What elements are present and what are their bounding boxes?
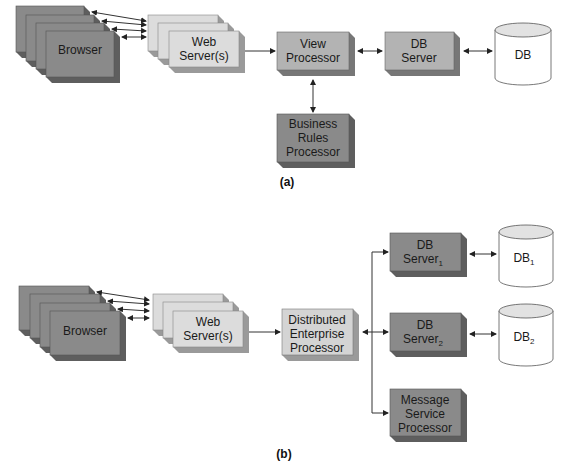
svg-text:Distributed: Distributed	[288, 313, 345, 327]
architecture-diagram: Browser Web Server(s) View Processor	[0, 0, 569, 474]
db-server-1-box: DB Server1	[390, 233, 467, 277]
svg-text:DB: DB	[411, 37, 428, 51]
svg-text:Processor: Processor	[286, 145, 340, 159]
svg-text:Server: Server	[401, 51, 436, 65]
business-rules-box: Business Rules Processor	[277, 114, 355, 168]
web-server-stack-b: Web Server(s)	[153, 294, 249, 353]
svg-text:Business: Business	[289, 117, 338, 131]
web-server-label-a-2: Server(s)	[179, 49, 228, 63]
caption-b: (b)	[276, 447, 291, 461]
web-server-stack-a: Web Server(s)	[148, 15, 245, 73]
db-1-cylinder: DB1	[499, 225, 553, 287]
db-server-box-a: DB Server	[385, 32, 460, 76]
svg-text:Processor: Processor	[290, 341, 344, 355]
message-service-box: Message Service Processor	[390, 389, 467, 442]
diagram-a: Browser Web Server(s) View Processor	[16, 6, 551, 189]
svg-text:DB: DB	[417, 238, 434, 252]
web-server-label-a-1: Web	[192, 35, 217, 49]
db-2-cylinder: DB2	[499, 304, 553, 366]
diagram-b: Browser Web Server(s) Distributed Enterp…	[19, 225, 553, 461]
dep-bus-lines	[363, 252, 388, 413]
browser-stack-b: Browser	[19, 286, 126, 361]
browser-label-a: Browser	[58, 43, 102, 57]
svg-text:Processor: Processor	[398, 421, 452, 435]
svg-text:DB: DB	[515, 48, 532, 62]
svg-text:Enterprise: Enterprise	[290, 327, 345, 341]
web-server-label-b-1: Web	[196, 315, 221, 329]
svg-text:View: View	[300, 37, 326, 51]
svg-text:Processor: Processor	[286, 51, 340, 65]
browser-label-b: Browser	[63, 324, 107, 338]
svg-text:Service: Service	[405, 407, 445, 421]
svg-text:Message: Message	[401, 393, 450, 407]
svg-text:Server1: Server1	[403, 252, 443, 268]
web-server-label-b-2: Server(s)	[183, 329, 232, 343]
svg-text:Server2: Server2	[403, 332, 443, 348]
db-cylinder-a: DB	[495, 23, 551, 85]
db-server-2-box: DB Server2	[390, 313, 467, 357]
caption-a: (a)	[280, 175, 295, 189]
svg-text:Rules: Rules	[298, 131, 329, 145]
browser-stack-a: Browser	[16, 6, 120, 83]
view-processor-box: View Processor	[277, 32, 355, 76]
dep-box: Distributed Enterprise Processor	[282, 309, 359, 361]
svg-text:DB: DB	[417, 318, 434, 332]
